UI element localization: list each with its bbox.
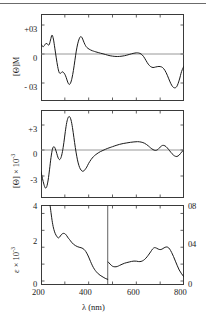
ylabel-mcd: [Θ]M <box>12 57 21 76</box>
xtick-600: 600 <box>127 288 140 297</box>
xlabel-lambda: λ <box>82 302 86 312</box>
ytick-right-0: 0 <box>188 280 206 289</box>
xlabel-wavelength: λ (nm) <box>82 303 105 312</box>
xlabel-units: (nm) <box>88 302 105 312</box>
xtick-200: 200 <box>32 288 45 297</box>
ylabel-cd-theta: [Θ] <box>11 176 21 188</box>
panel-cd <box>41 110 184 198</box>
ylabel-eps-mult: × 10-3 <box>11 247 21 267</box>
ylabel-absorption: ε × 10-3 <box>12 247 21 273</box>
xtick-400: 400 <box>79 288 92 297</box>
figure-container: +03 0 - 03 [Θ]M +3 0 -3 [Θ] × 10-3 4 2 0… <box>0 0 206 325</box>
panel-mcd <box>41 14 184 101</box>
ylabel-eps-symbol: ε <box>11 269 21 273</box>
panel-mcd-plot <box>41 14 184 101</box>
ytick-right-04: 04 <box>188 240 206 249</box>
ylabel-cd: [Θ] × 10-3 <box>12 154 21 188</box>
top-border-rule <box>0 3 206 4</box>
panel-absorption <box>41 205 184 285</box>
panel-cd-plot <box>41 110 184 198</box>
xtick-800: 800 <box>174 288 187 297</box>
ytick-eps-4: 4 <box>8 202 37 211</box>
ylabel-cd-mult: × 10-3 <box>11 154 21 174</box>
ytick-mcd-neg3: - 03 <box>5 83 37 92</box>
panel-absorption-plot <box>41 205 184 285</box>
ytick-cd-pos3: +3 <box>8 125 37 134</box>
ylabel-mcd-text: [Θ]M <box>11 57 21 76</box>
ytick-mcd-pos3: +03 <box>8 25 37 34</box>
ytick-eps-2: 2 <box>8 237 37 246</box>
ytick-right-08: 08 <box>188 202 206 211</box>
